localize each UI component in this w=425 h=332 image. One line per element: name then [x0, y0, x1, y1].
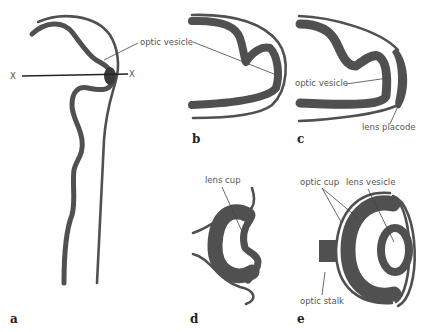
optic-cup-label: optic cup — [300, 177, 339, 187]
x-right-label: X — [129, 69, 135, 79]
leader-line — [322, 272, 325, 295]
optic-vesicle-label: optic vesicle — [140, 37, 193, 47]
panel-a: X X optic vesicle a — [10, 16, 193, 326]
panel-b: b — [192, 15, 286, 146]
optic-vesicle-wall — [300, 24, 387, 104]
panel-d: lens cup d — [190, 175, 258, 326]
panel-letter-d: d — [190, 312, 199, 326]
optic-stalk-label: optic stalk — [300, 296, 344, 306]
panel-c: optic vesicle lens placode c — [295, 16, 416, 146]
surface-ectoderm — [38, 16, 118, 283]
panel-letter-c: c — [297, 132, 304, 146]
optic-cup — [348, 203, 394, 295]
lens-placode-label: lens placode — [362, 122, 416, 132]
lens-placode — [392, 48, 407, 108]
optic-vesicle-bulge — [104, 67, 116, 85]
x-left-label: X — [10, 71, 16, 81]
panel-e: optic cup lens vesicle optic stalk e — [297, 177, 415, 326]
optic-stalk — [319, 240, 337, 262]
panel-letter-b: b — [192, 132, 200, 146]
neural-wall — [32, 24, 112, 283]
panel-letter-a: a — [10, 312, 18, 326]
leader-line — [322, 188, 341, 222]
panel-letter-e: e — [297, 312, 305, 326]
lens-cup-label: lens cup — [205, 175, 241, 185]
leader-line — [104, 43, 138, 60]
lens-vesicle — [381, 228, 409, 272]
leader-line — [346, 78, 388, 84]
optic-vesicle-label: optic vesicle — [295, 78, 348, 88]
leader-line — [322, 188, 358, 218]
embryo-eye-diagram: X X optic vesicle a b optic vesicle lens… — [0, 0, 425, 332]
lens-vesicle-label: lens vesicle — [346, 177, 395, 187]
optic-vesicle-wall — [192, 21, 278, 105]
